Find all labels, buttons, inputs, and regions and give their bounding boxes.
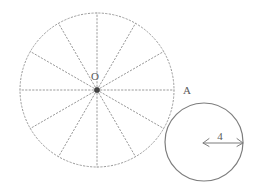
spoke-060 [97,23,136,90]
spoke-240 [59,90,98,157]
geometry-figure: O A 4 [0,0,256,191]
spoke-030 [97,52,164,91]
spoke-210 [30,90,97,129]
center-dot-icon [94,87,99,92]
radius-value-label: 4 [217,130,223,142]
rim-label-a: A [183,84,191,96]
spoke-330 [97,90,164,129]
radius-measure-arrow-icon [203,139,243,147]
spoke-150 [30,52,97,91]
figure-canvas: O A 4 [0,0,256,191]
spoke-300 [97,90,136,157]
center-label-o: O [91,70,99,82]
